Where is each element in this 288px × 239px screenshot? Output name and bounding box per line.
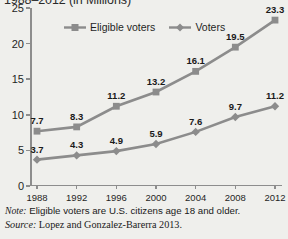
data-point-marker	[272, 17, 279, 24]
data-point-label: 9.7	[229, 101, 242, 112]
note-label: Note:	[5, 205, 27, 216]
x-axis-tick	[155, 185, 157, 189]
y-axis-tick-label: 10	[12, 109, 24, 121]
data-point-label: 8.3	[70, 111, 83, 122]
data-point-marker	[153, 89, 160, 96]
data-point-marker	[34, 128, 41, 135]
data-point-label: 5.9	[149, 128, 162, 139]
data-point-label: 13.2	[147, 76, 166, 87]
chart-figure: 1988–2012 (in Millions) Eligible voters …	[0, 0, 288, 239]
y-axis-tick-label: 15	[12, 73, 24, 85]
x-axis-tick-label: 2012	[264, 192, 285, 203]
x-axis-tick-label: 2008	[225, 192, 246, 203]
x-axis-tick	[235, 185, 237, 189]
data-point-label: 19.5	[226, 31, 245, 42]
data-point-label: 3.7	[30, 144, 43, 155]
x-axis-tick-label: 2004	[185, 192, 206, 203]
x-axis-tick	[36, 185, 38, 189]
data-point-marker	[33, 155, 41, 163]
y-axis-tick	[26, 185, 30, 187]
y-axis-tick	[26, 7, 30, 9]
data-point-label: 7.6	[189, 116, 202, 127]
note-line: Note: Eligible voters are U.S. citizens …	[5, 204, 285, 217]
y-axis-tick	[26, 150, 30, 152]
x-axis-tick	[195, 185, 197, 189]
x-axis-tick-label: 1992	[66, 192, 87, 203]
data-point-label: 4.3	[70, 139, 83, 150]
data-point-marker	[73, 124, 80, 131]
y-axis-tick-label: 25	[12, 2, 24, 14]
source-text: Lopez and Gonzalez-Barerra 2013.	[36, 219, 182, 230]
data-point-marker	[191, 128, 199, 136]
y-axis-tick	[26, 43, 30, 45]
x-axis-tick-label: 2000	[145, 192, 166, 203]
plot-area: 051015202519881992199620002004200820127.…	[30, 8, 282, 186]
data-point-marker	[271, 102, 279, 110]
chart-footnotes: Note: Eligible voters are U.S. citizens …	[5, 204, 285, 232]
data-point-label: 4.9	[110, 135, 123, 146]
data-point-marker	[232, 44, 239, 51]
y-axis-tick	[26, 114, 30, 116]
source-line: Source: Lopez and Gonzalez-Barerra 2013.	[5, 218, 285, 232]
data-point-label: 16.1	[186, 55, 205, 66]
note-text: Eligible voters are U.S. citizens age 18…	[27, 205, 241, 216]
data-point-label: 7.7	[30, 115, 43, 126]
source-label: Source:	[5, 219, 36, 230]
data-point-label: 11.2	[107, 90, 125, 101]
y-axis-tick-label: 5	[18, 144, 24, 156]
y-axis-tick	[26, 78, 30, 80]
data-point-marker	[152, 140, 160, 148]
data-point-label: 23.3	[266, 4, 285, 15]
data-point-marker	[72, 151, 80, 159]
x-axis-tick	[76, 185, 78, 189]
x-axis-tick	[116, 185, 118, 189]
data-point-marker	[113, 103, 120, 110]
y-axis-tick-label: 0	[18, 180, 24, 192]
data-point-marker	[231, 113, 239, 121]
x-axis-tick	[274, 185, 276, 189]
y-axis-tick-label: 20	[12, 38, 24, 50]
x-axis-tick-label: 1988	[26, 192, 47, 203]
x-axis-tick-label: 1996	[106, 192, 127, 203]
data-point-marker	[112, 147, 120, 155]
data-point-label: 11.2	[266, 90, 284, 101]
data-point-marker	[192, 68, 199, 75]
